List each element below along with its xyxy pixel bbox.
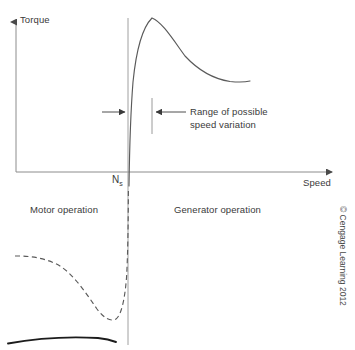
synchronous-speed-label: Ns bbox=[112, 174, 123, 187]
ns-subscript: s bbox=[119, 180, 123, 187]
copyright-notice: © Cengage Learning 2012 bbox=[338, 206, 348, 336]
page-artifact-arc bbox=[8, 338, 116, 344]
generator-torque-curve bbox=[129, 18, 250, 186]
range-annotation-line-1: Range of possible bbox=[190, 106, 268, 117]
y-axis-label: Torque bbox=[20, 14, 50, 25]
motor-operation-label: Motor operation bbox=[30, 204, 98, 215]
x-axis-label: Speed bbox=[303, 177, 331, 188]
diagram-canvas bbox=[0, 0, 355, 350]
torque-speed-diagram: Torque Speed Ns Motor operation Generato… bbox=[0, 0, 355, 350]
generator-operation-label: Generator operation bbox=[174, 204, 261, 215]
range-annotation-label: Range of possiblespeed variation bbox=[190, 106, 285, 131]
range-annotation-line-2: speed variation bbox=[190, 119, 256, 130]
